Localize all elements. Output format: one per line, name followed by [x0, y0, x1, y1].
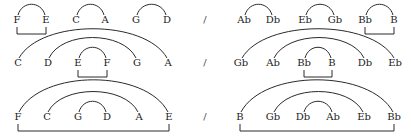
note-label: B	[236, 111, 243, 122]
note-label: E	[165, 111, 172, 122]
arc-F-E	[18, 4, 45, 15]
arc-B-Bb	[241, 80, 393, 112]
note-label: D	[163, 14, 171, 25]
arc-C-A	[19, 29, 167, 58]
separator-slash: /	[203, 14, 207, 25]
note-label: C	[72, 14, 80, 25]
note-group-right-row-3: BGbDbAbEbBb	[236, 80, 401, 131]
note-label: A	[163, 57, 172, 68]
bracket-Bb-B	[304, 70, 332, 77]
separator-slash: /	[203, 111, 207, 122]
arc-G-D	[79, 101, 106, 112]
pitch-diagram: FECAGD/AbDbEbGbBbBCDEFGA/GbAbBbBDbEbFCGD…	[0, 0, 411, 136]
arc-E-F	[79, 47, 106, 58]
note-label: Db	[358, 57, 372, 68]
note-label: Eb	[357, 111, 371, 122]
arc-F-E	[19, 80, 168, 112]
note-label: Gb	[234, 57, 248, 68]
note-label: Gb	[328, 14, 342, 25]
bracket-F-E	[18, 124, 169, 131]
note-group-right-row-1: AbDbEbGbBbB	[236, 4, 397, 34]
note-label: Ab	[265, 57, 280, 68]
arc-G-D	[137, 4, 166, 15]
note-label: F	[104, 57, 111, 68]
arc-Gb-Eb	[242, 29, 394, 58]
note-label: Eb	[298, 14, 312, 25]
note-label: G	[74, 111, 82, 122]
note-label: E	[42, 14, 49, 25]
bracket-E-F	[78, 70, 107, 77]
separator-slash: /	[203, 57, 207, 68]
note-label: Bb	[387, 111, 401, 122]
note-label: A	[100, 14, 109, 25]
note-label: C	[14, 57, 22, 68]
note-label: F	[15, 111, 22, 122]
note-label: A	[134, 111, 143, 122]
note-label: Db	[296, 111, 310, 122]
note-label: Bb	[297, 57, 311, 68]
note-group-right-row-2: GbAbBbBDbEb	[234, 29, 402, 77]
note-label: F	[14, 14, 21, 25]
note-label: B	[390, 14, 397, 25]
arc-C-A	[77, 4, 104, 15]
note-label: G	[132, 14, 140, 25]
note-label: C	[43, 111, 51, 122]
bracket-F-E	[17, 27, 46, 34]
note-label: G	[133, 57, 141, 68]
note-label: Gb	[266, 111, 280, 122]
note-label: Eb	[388, 57, 402, 68]
note-label: Ab	[236, 14, 251, 25]
note-label: B	[328, 57, 335, 68]
note-label: D	[103, 111, 111, 122]
diagram-canvas: FECAGD/AbDbEbGbBbBCDEFGA/GbAbBbBDbEbFCGD…	[0, 0, 411, 136]
note-group-left-row-1: FECAGD	[14, 4, 171, 34]
note-label: Ab	[325, 111, 340, 122]
note-group-left-row-3: FCGDAE	[15, 80, 173, 131]
bracket-Bb-B	[365, 27, 394, 34]
note-label: E	[74, 57, 81, 68]
note-label: D	[44, 57, 52, 68]
note-label: Bb	[358, 14, 372, 25]
note-group-left-row-2: CDEFGA	[14, 29, 172, 77]
bracket-B-Bb	[240, 124, 394, 131]
note-label: Db	[266, 14, 280, 25]
